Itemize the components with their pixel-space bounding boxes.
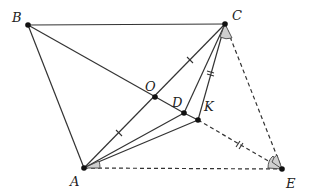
point-K xyxy=(195,117,201,123)
segment-BC xyxy=(28,24,225,25)
dashed-segments xyxy=(84,24,282,169)
label-K: K xyxy=(203,99,215,114)
segment-CE xyxy=(225,24,282,169)
label-A: A xyxy=(69,174,79,189)
points xyxy=(25,21,285,172)
solid-segments xyxy=(28,24,225,168)
labels: A B C O D K E xyxy=(11,8,296,191)
point-A xyxy=(81,165,87,171)
label-E: E xyxy=(285,176,296,191)
label-O: O xyxy=(145,79,156,94)
segment-BA xyxy=(28,25,84,168)
point-D xyxy=(181,110,187,116)
segment-AK xyxy=(84,120,198,168)
segment-BD xyxy=(28,25,184,113)
label-B: B xyxy=(11,10,22,25)
point-C xyxy=(222,21,228,27)
segment-AE xyxy=(84,168,282,169)
point-B xyxy=(25,22,31,28)
point-E xyxy=(279,166,285,172)
geometry-diagram: A B C O D K E xyxy=(0,0,312,194)
label-D: D xyxy=(171,95,183,110)
angle-marks xyxy=(84,24,282,169)
point-O xyxy=(152,94,158,100)
tick-CK-1 xyxy=(207,71,214,73)
label-C: C xyxy=(232,8,242,23)
segment-AD xyxy=(84,113,184,168)
